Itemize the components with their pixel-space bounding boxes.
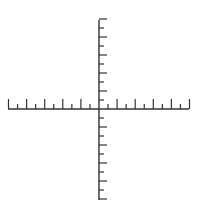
coordinate-axes-diagram xyxy=(0,0,201,218)
